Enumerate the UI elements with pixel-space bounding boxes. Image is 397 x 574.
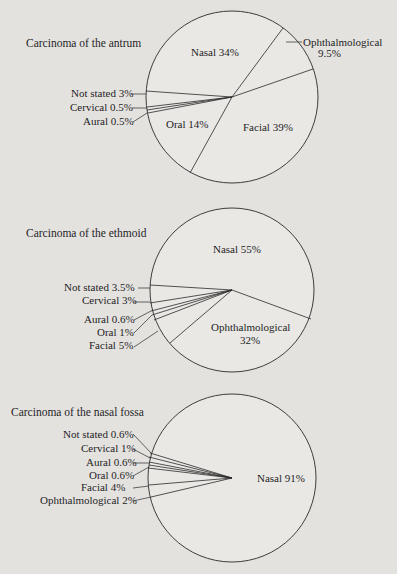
leader-line [133, 467, 149, 476]
label-ophthalmological: Ophthalmological 2% [40, 494, 137, 506]
label-ophthalmological-value: 32% [240, 334, 260, 346]
label-not-stated: Not stated 3% [71, 87, 133, 99]
label-facial: Facial 39% [243, 121, 293, 133]
label-nasal: Nasal 34% [191, 46, 239, 58]
figure-page: Carcinoma of the antrum Nasal 34% Ophtha… [0, 0, 397, 574]
label-ophthalmological-value: 9.5% [318, 47, 341, 59]
leader-line [134, 315, 152, 333]
label-ophthalmological: Ophthalmological [211, 321, 290, 333]
label-aural: Aural 0.5% [83, 115, 134, 127]
chart-title-nasal-fossa: Carcinoma of the nasal fossa [11, 406, 144, 418]
leader-line [134, 331, 158, 347]
label-cervical: Cervical 3% [82, 294, 137, 306]
label-aural: Aural 0.6% [86, 456, 137, 468]
pie-charts-figure: Carcinoma of the antrum Nasal 34% Ophtha… [0, 0, 397, 574]
pie-chart-nasal-fossa: Carcinoma of the nasal fossa Nasal 91% N… [11, 394, 316, 562]
label-facial: Facial 4% [81, 481, 125, 493]
pie-chart-ethmoid: Carcinoma of the ethmoid Nasal 55% Ophth… [26, 208, 314, 372]
label-ophthalmological: Ophthalmological [303, 36, 382, 48]
label-not-stated: Not stated 3.5% [64, 281, 135, 293]
chart-title-ethmoid: Carcinoma of the ethmoid [26, 227, 147, 239]
label-not-stated: Not stated 0.6% [63, 428, 134, 440]
leader-line [133, 434, 152, 454]
label-cervical: Cervical 0.5% [70, 101, 133, 113]
chart-title-antrum: Carcinoma of the antrum [26, 37, 141, 49]
label-nasal: Nasal 91% [257, 472, 305, 484]
pie-chart-antrum: Carcinoma of the antrum Nasal 34% Ophtha… [26, 11, 382, 183]
label-oral: Oral 0.6% [89, 469, 134, 481]
leader-line [133, 113, 147, 122]
leader-line [133, 486, 149, 488]
label-oral: Oral 1% [97, 326, 134, 338]
label-oral: Oral 14% [166, 118, 208, 130]
label-cervical: Cervical 1% [81, 442, 136, 454]
label-nasal: Nasal 55% [213, 243, 261, 255]
label-aural: Aural 0.6% [84, 313, 135, 325]
label-facial: Facial 5% [89, 339, 133, 351]
